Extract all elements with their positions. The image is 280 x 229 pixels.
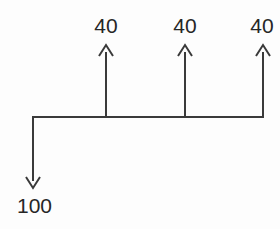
outflow-arrow-2-label: 40: [173, 15, 196, 36]
diagram-canvas: 40 40 40 100: [0, 0, 280, 229]
inflow-arrow-label: 100: [17, 195, 52, 216]
outflow-arrow-1-label: 40: [94, 15, 117, 36]
outflow-arrow-3-label: 40: [250, 15, 273, 36]
